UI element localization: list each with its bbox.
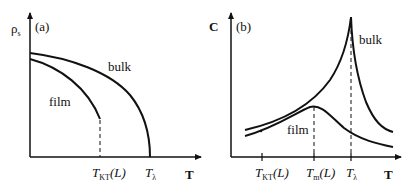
tick-label-tkt: TKT(L) xyxy=(255,165,289,182)
panel-b: C (b) bulk film TKT(L) Tm(L) Tλ T xyxy=(209,13,401,182)
film-label: film xyxy=(287,122,309,137)
bulk-label: bulk xyxy=(108,59,132,74)
panel-a: ρs (a) bulk film TKT(L) Tλ T xyxy=(11,13,201,182)
tick-label-tm: Tm(L) xyxy=(306,165,335,182)
y-axis-label: ρs xyxy=(11,21,21,38)
tick-label-tlambda: Tλ xyxy=(145,165,156,182)
panel-label: (b) xyxy=(236,19,251,34)
figure: ρs (a) bulk film TKT(L) Tλ T C (b) xyxy=(0,0,417,187)
y-axis-label: C xyxy=(209,19,218,34)
x-axis-label: T xyxy=(185,167,194,182)
tick-label-tlambda: Tλ xyxy=(346,165,357,182)
x-axis-label: T xyxy=(384,167,393,182)
panel-label: (a) xyxy=(35,19,49,34)
bulk-curve xyxy=(30,53,150,157)
film-marker-dot xyxy=(260,130,263,133)
bulk-label: bulk xyxy=(359,32,383,47)
film-label: film xyxy=(49,94,71,109)
tick-label-tkt: TKT(L) xyxy=(92,165,126,182)
